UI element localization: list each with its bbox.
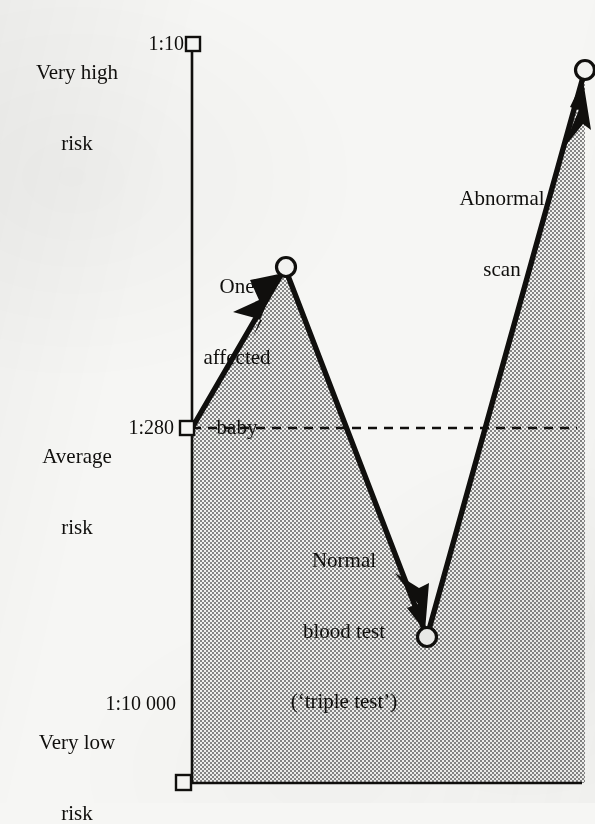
annotation-line-2: scan <box>432 258 572 282</box>
y-axis-tick-label-1-10000: 1:10 000 <box>64 692 176 714</box>
y-axis-tick-label-1-280: 1:280 <box>64 416 174 438</box>
risk-band-line-2: risk <box>2 132 152 156</box>
annotation-normal-blood-test: Normal blood test (‘triple test’) <box>268 502 420 761</box>
annotation-abnormal-scan: Abnormal scan <box>432 140 572 328</box>
annotation-line-3: (‘triple test’) <box>268 690 420 714</box>
annotation-one-affected-baby: One affected baby <box>178 228 296 487</box>
annotation-line-3: baby <box>178 416 296 440</box>
risk-band-line-2: risk <box>2 516 152 540</box>
risk-band-line-1: Average <box>2 445 152 469</box>
annotation-line-2: affected <box>178 346 296 370</box>
annotation-line-1: One <box>178 275 296 299</box>
annotation-line-1: Abnormal <box>432 187 572 211</box>
tick-marker-square-top <box>186 37 200 51</box>
annotation-line-1: Normal <box>268 549 420 573</box>
risk-band-line-1: Very low <box>2 731 152 755</box>
data-point-normal-blood-test <box>418 628 437 647</box>
y-axis-tick-label-1-10: 1:10 <box>86 32 184 54</box>
annotation-line-2: blood test <box>268 620 420 644</box>
risk-band-line-1: Very high <box>2 61 152 85</box>
tick-marker-square-origin <box>176 775 191 790</box>
risk-band-line-2: risk <box>2 802 152 824</box>
data-point-abnormal-scan <box>576 61 595 80</box>
